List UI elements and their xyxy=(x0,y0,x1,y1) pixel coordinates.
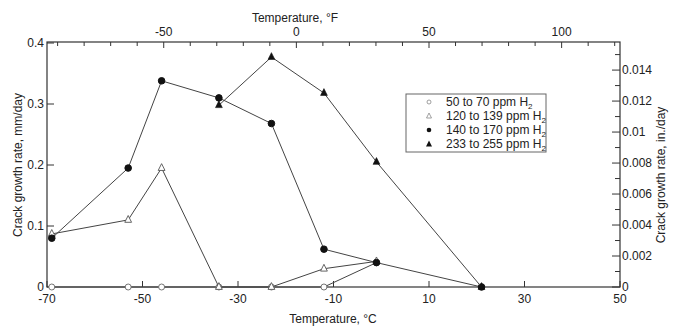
y2-tick-label: 0.004 xyxy=(622,218,652,232)
filled-triangle-marker xyxy=(216,101,223,108)
x-tick-label: 30 xyxy=(518,292,532,306)
plot-frame xyxy=(47,42,620,287)
x-tick-label: 50 xyxy=(613,292,627,306)
x2-tick-label: 50 xyxy=(422,25,436,39)
y2-tick-label: 0.01 xyxy=(622,125,646,139)
x2-tick-label: 100 xyxy=(552,25,572,39)
y2-tick-label: 0.012 xyxy=(622,94,652,108)
y-tick-label: 0.3 xyxy=(27,97,44,111)
x2-tick-label: -50 xyxy=(155,25,173,39)
y2-tick-label: 0.006 xyxy=(622,187,652,201)
y2-tick-label: 0.008 xyxy=(622,156,652,170)
filled-circle-marker xyxy=(158,78,165,85)
data-series xyxy=(48,53,485,291)
x-tick-label: -10 xyxy=(325,292,343,306)
y-tick-label: 0.4 xyxy=(27,36,44,50)
filled-circle-marker xyxy=(321,246,328,253)
open-circle-marker xyxy=(125,284,131,290)
legend-label: 233 to 255 ppm H2 xyxy=(446,137,546,153)
legend-open-circle-icon xyxy=(427,100,431,104)
y2-tick-label: 0.014 xyxy=(622,63,652,77)
legend: 50 to 70 ppm H2120 to 139 ppm H2140 to 1… xyxy=(406,94,546,153)
open-triangle-marker xyxy=(321,264,328,271)
open-circle-marker xyxy=(49,284,55,290)
filled-circle-marker xyxy=(268,120,275,127)
x2-axis-title: Temperature, °F xyxy=(252,11,338,25)
plot-border xyxy=(47,42,620,287)
axis-ticks: -70-50-30-1010305000.10.20.30.4-50050100… xyxy=(27,25,652,306)
series-line xyxy=(219,57,482,287)
filled-circle-marker xyxy=(125,165,132,172)
filled-circle-marker xyxy=(48,235,55,242)
filled-triangle-marker xyxy=(268,53,275,60)
open-circle-marker xyxy=(321,284,327,290)
open-triangle-marker xyxy=(158,164,165,171)
x-tick-label: -50 xyxy=(134,292,152,306)
legend-filled-circle-icon xyxy=(427,128,432,133)
series-2 xyxy=(48,164,380,290)
y2-tick-label: 0 xyxy=(622,280,629,294)
x-tick-label: -30 xyxy=(229,292,247,306)
y-tick-label: 0.2 xyxy=(27,158,44,172)
y-axis-title: Crack growth rate, mm/day xyxy=(11,93,25,237)
crack-growth-chart: -70-50-30-1010305000.10.20.30.4-50050100… xyxy=(0,0,677,330)
y2-axis-title: Crack growth rate, in./day xyxy=(654,107,668,244)
y-tick-label: 0.1 xyxy=(27,219,44,233)
open-circle-marker xyxy=(159,284,165,290)
y2-tick-label: 0.002 xyxy=(622,249,652,263)
x-tick-label: -70 xyxy=(38,292,56,306)
x-axis-title: Temperature, °C xyxy=(289,312,377,326)
series-4 xyxy=(216,53,485,290)
filled-circle-marker xyxy=(373,259,380,266)
x2-tick-label: 0 xyxy=(293,25,300,39)
x-tick-label: 10 xyxy=(422,292,436,306)
series-1 xyxy=(49,260,380,290)
series-line xyxy=(52,263,377,287)
y-tick-label: 0 xyxy=(37,280,44,294)
series-line xyxy=(52,168,377,287)
filled-triangle-marker xyxy=(321,89,328,96)
